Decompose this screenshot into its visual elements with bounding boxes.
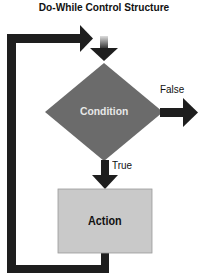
- flowchart: [0, 0, 208, 273]
- false-label: False: [160, 83, 184, 95]
- false-arrow: [160, 98, 198, 127]
- action-label: Action: [88, 214, 122, 228]
- true-label: True: [112, 159, 132, 171]
- condition-label: Condition: [80, 105, 128, 117]
- entry-arrow: [90, 36, 118, 61]
